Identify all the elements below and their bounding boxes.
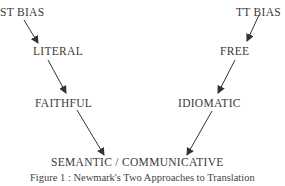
node-free: FREE [220,45,249,57]
arrow-literal-faithful [48,60,66,93]
node-literal: LITERAL [33,45,83,57]
node-tt-bias: TT BIAS [236,6,281,18]
node-st-bias: ST BIAS [0,6,44,18]
arrow-stbias-literal [24,20,38,43]
arrow-free-idiomatic [218,60,235,93]
node-semantic-communicative: SEMANTIC / COMMUNICATIVE [51,156,224,168]
arrow-idiomatic-semantic [187,111,212,155]
node-idiomatic: IDIOMATIC [178,97,241,109]
arrow-faithful-semantic [77,110,104,155]
figure-caption: Figure 1 : Newmark's Two Approaches to T… [30,172,255,183]
arrow-ttbias-free-2 [247,15,259,41]
node-faithful: FAITHFUL [35,97,92,109]
